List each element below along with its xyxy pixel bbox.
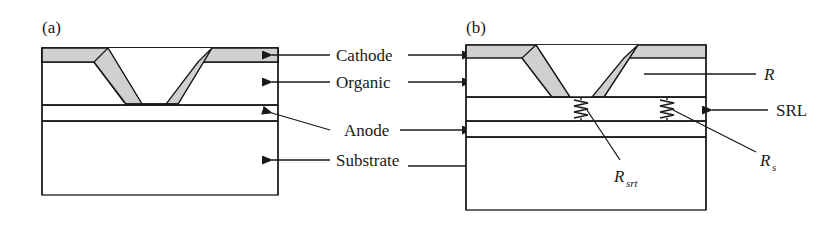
panel-a-substrate-layer	[42, 121, 278, 195]
label-resistance-rs: R	[759, 151, 771, 170]
panel-b: (b)	[466, 18, 706, 210]
label-resistance-rsrt: R	[613, 167, 625, 186]
panel-b-anode-layer	[466, 121, 706, 137]
label-resistance-rs-subscript: s	[772, 161, 776, 173]
device-cross-section-diagram: (a) Cathode Organic Anode	[0, 0, 835, 229]
label-resistance-rsrt-subscript: srt	[626, 177, 639, 189]
label-organic: Organic	[336, 73, 391, 92]
label-substrate: Substrate	[336, 151, 399, 170]
label-resistance-r: R	[763, 65, 775, 84]
panel-b-label: (b)	[466, 18, 486, 37]
label-cathode: Cathode	[336, 46, 393, 65]
panel-b-substrate-layer	[466, 137, 706, 210]
panel-a-anode-layer	[42, 105, 278, 121]
panel-a-label: (a)	[42, 18, 61, 37]
figure-container: (a) Cathode Organic Anode	[0, 0, 835, 229]
label-anode: Anode	[344, 121, 389, 140]
label-srl: SRL	[776, 101, 807, 120]
